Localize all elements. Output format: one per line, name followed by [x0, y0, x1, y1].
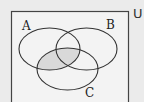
universe-label: U — [133, 6, 143, 21]
set-c-label: C — [85, 86, 94, 100]
set-a-label: A — [21, 19, 31, 33]
set-b-label: B — [106, 18, 115, 32]
venn-diagram: A B C U — [0, 0, 144, 102]
